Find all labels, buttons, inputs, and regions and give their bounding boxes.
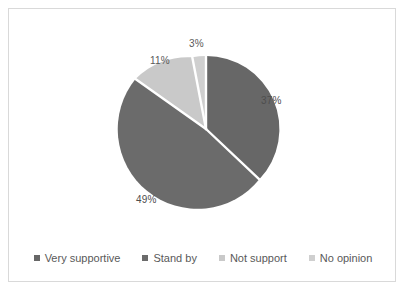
- legend-swatch-icon: [309, 255, 315, 261]
- legend-swatch-icon: [34, 255, 40, 261]
- legend-item-stand-by[interactable]: Stand by: [142, 252, 196, 264]
- chart-frame: 37% 49% 11% 3% Very supportive Stand by …: [8, 8, 396, 282]
- legend-swatch-icon: [219, 255, 225, 261]
- pie-slices: [118, 56, 280, 209]
- legend-label-stand-by: Stand by: [153, 252, 196, 264]
- legend-label-very-supportive: Very supportive: [45, 252, 121, 264]
- pie-label-no-opinion: 3%: [189, 38, 204, 49]
- pie-label-not-support: 11%: [150, 55, 170, 66]
- legend-item-not-support[interactable]: Not support: [219, 252, 287, 264]
- legend-label-no-opinion: No opinion: [320, 252, 373, 264]
- legend-item-no-opinion[interactable]: No opinion: [309, 252, 373, 264]
- legend-label-not-support: Not support: [230, 252, 287, 264]
- chart-legend: Very supportive Stand by Not support No …: [9, 245, 397, 271]
- pie-label-stand-by: 49%: [136, 194, 157, 205]
- legend-swatch-icon: [142, 255, 148, 261]
- legend-item-very-supportive[interactable]: Very supportive: [34, 252, 121, 264]
- pie-label-very-supportive: 37%: [261, 95, 282, 106]
- pie-chart-plot-area: 37% 49% 11% 3%: [9, 9, 397, 241]
